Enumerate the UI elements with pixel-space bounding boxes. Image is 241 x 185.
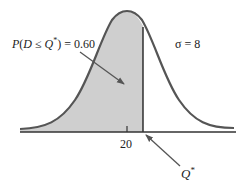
shaded-area bbox=[20, 11, 143, 132]
qstar-q: Q bbox=[181, 166, 190, 181]
prob-le: ≤ bbox=[32, 37, 45, 51]
mean-tick-label: 20 bbox=[120, 138, 132, 150]
qstar-star: * bbox=[190, 165, 195, 175]
sigma-label: σ = 8 bbox=[175, 38, 200, 50]
prob-close: ) = 0.60 bbox=[57, 37, 95, 51]
normal-curve-diagram bbox=[0, 0, 241, 185]
q-star-label: Q* bbox=[181, 166, 195, 180]
prob-q: Q bbox=[45, 37, 54, 51]
probability-label: P(D ≤ Q*) = 0.60 bbox=[12, 37, 95, 50]
prob-d: D bbox=[23, 37, 32, 51]
q-star-arrow bbox=[146, 135, 180, 166]
